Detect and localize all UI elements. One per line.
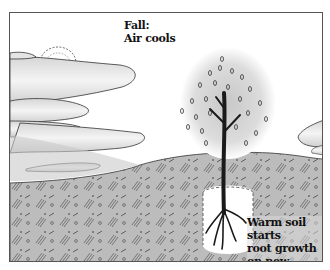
soil-caption-line-3: on new plant (247, 255, 322, 262)
season-title: Fall: (124, 19, 175, 32)
illustration-frame: Fall: Air cools Warm soil starts root gr… (9, 12, 323, 262)
soil-caption: Warm soil starts root growth on new plan… (247, 216, 322, 262)
season-label: Fall: Air cools (124, 19, 175, 45)
cloud-right (298, 120, 323, 147)
soil-caption-line-1: Warm soil starts (247, 216, 322, 242)
season-caption: Air cools (124, 32, 175, 45)
tree-canopy (180, 47, 276, 159)
soil-caption-line-2: root growth (247, 242, 322, 255)
